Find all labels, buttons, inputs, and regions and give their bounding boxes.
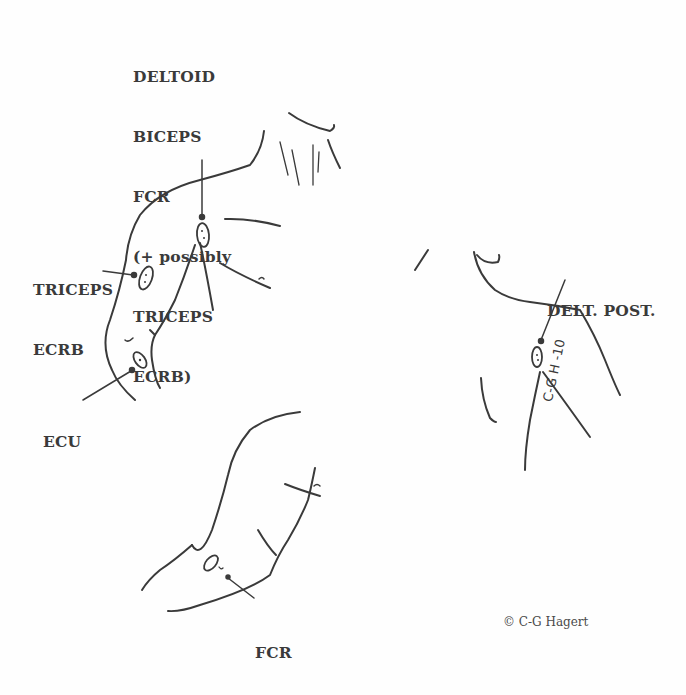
label-deltoid: DELTOID [133, 67, 231, 87]
label-delt-post: DELT. POST. [547, 301, 656, 321]
label-shoulder-front: DELTOID BICEPS FCR (+ possibly TRICEPS E… [133, 27, 231, 427]
label-biceps: BICEPS [133, 127, 231, 147]
figure-forearm [142, 412, 320, 611]
copyright-notice: © C-G Hagert [503, 615, 588, 629]
label-fcr: FCR [255, 643, 353, 663]
label-ecrb: ECRB) [133, 367, 231, 387]
label-upper-arm-back: TRICEPS ECRB [33, 240, 113, 400]
label-forearm: FCR (+ possibly APB) [255, 603, 353, 695]
diagram-canvas: DELTOID BICEPS FCR (+ possibly TRICEPS E… [0, 0, 686, 695]
label-triceps: TRICEPS [33, 280, 113, 300]
label-ecrb: ECRB [33, 340, 113, 360]
label-ecu: ECU [43, 432, 81, 452]
label-fcr: FCR [133, 187, 231, 207]
label-possibly: (+ possibly [133, 247, 231, 267]
label-elbow: ECU [43, 392, 81, 492]
label-triceps: TRICEPS [133, 307, 231, 327]
